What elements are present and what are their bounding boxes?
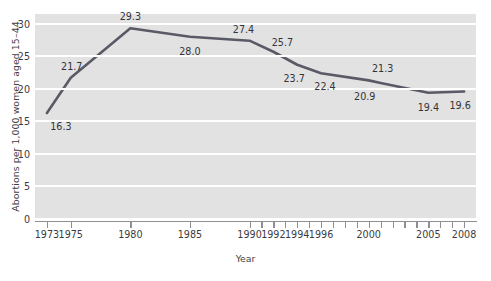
x-axis-tick-mark (297, 222, 298, 228)
data-series-line (35, 14, 476, 219)
x-axis-tick-mark (393, 222, 394, 228)
gridline (35, 55, 476, 57)
x-axis-tick-mark (381, 222, 382, 228)
x-axis-tick-mark (369, 222, 370, 228)
data-point-label: 21.3 (372, 63, 393, 74)
x-axis-tick-mark (428, 222, 429, 228)
x-axis-tick-label: 2000 (357, 229, 381, 240)
x-axis-tick-mark (357, 222, 358, 228)
x-axis-tick-label: 1980 (118, 229, 142, 240)
x-axis-tick-label: 1992 (261, 229, 285, 240)
x-axis-tick-mark (464, 222, 465, 228)
data-point-label: 27.4 (233, 23, 254, 34)
series-polyline (47, 28, 464, 113)
x-axis-tick-mark (404, 222, 405, 228)
x-axis-tick-mark (190, 222, 191, 228)
data-point-label: 19.4 (418, 101, 439, 112)
plot-area (35, 14, 476, 219)
data-point-label: 16.3 (50, 120, 71, 131)
x-axis-tick-label: 1994 (285, 229, 309, 240)
x-axis-tick-mark (285, 222, 286, 228)
x-axis-tick-mark (416, 222, 417, 228)
data-point-label: 19.6 (449, 100, 470, 111)
y-axis-tick-label: 15 (18, 116, 30, 127)
x-axis-tick-label: 2008 (452, 229, 476, 240)
data-point-label: 21.7 (61, 60, 82, 71)
x-axis-tick-mark (452, 222, 453, 228)
gridline (35, 23, 476, 25)
x-axis-tick-mark (71, 222, 72, 228)
x-axis-tick-label: 2005 (416, 229, 440, 240)
data-point-label: 29.3 (120, 11, 141, 22)
x-axis-tick-label: 1985 (178, 229, 202, 240)
x-axis-tick-label: 1996 (309, 229, 333, 240)
x-axis-tick-mark (250, 222, 251, 228)
x-axis-tick-mark (273, 222, 274, 228)
x-axis-tick-mark (309, 222, 310, 228)
data-point-label: 20.9 (354, 90, 375, 101)
x-axis-tick-mark (333, 222, 334, 228)
abortion-rate-line-chart: Abortions per 1,000 women aged 15–44 051… (0, 0, 491, 281)
y-axis-tick-label: 20 (18, 83, 30, 94)
data-point-label: 25.7 (272, 36, 293, 47)
gridline (35, 153, 476, 155)
gridline (35, 185, 476, 187)
x-axis-line (35, 221, 477, 222)
y-axis-tick-label: 10 (18, 148, 30, 159)
x-axis-tick-label: 1975 (59, 229, 83, 240)
x-axis-tick-mark (130, 222, 131, 228)
x-axis-tick-label: 1990 (237, 229, 261, 240)
gridline (35, 88, 476, 90)
data-point-label: 22.4 (314, 81, 335, 92)
data-point-label: 28.0 (179, 45, 200, 56)
x-axis-title: Year (0, 253, 491, 264)
x-axis-tick-mark (261, 222, 262, 228)
y-axis-tick-label: 30 (18, 18, 30, 29)
gridline (35, 218, 476, 220)
y-axis-tick-label: 0 (24, 214, 30, 225)
gridline (35, 120, 476, 122)
x-axis-tick-mark (440, 222, 441, 228)
x-axis-tick-mark (47, 222, 48, 228)
x-axis-tick-label: 1973 (35, 229, 59, 240)
data-point-label: 23.7 (284, 72, 305, 83)
x-axis-tick-mark (321, 222, 322, 228)
y-axis-tick-label: 25 (18, 51, 30, 62)
y-axis-tick-label: 5 (24, 181, 30, 192)
x-axis-tick-mark (345, 222, 346, 228)
